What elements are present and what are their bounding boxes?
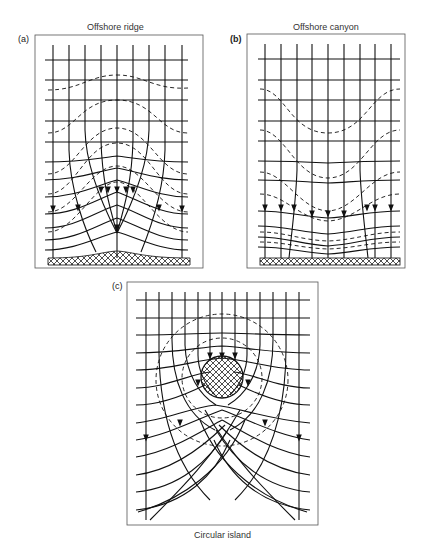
panel-c-circular-island bbox=[127, 282, 318, 525]
wave-refraction-diagram bbox=[0, 0, 433, 553]
panel-b-offshore-canyon bbox=[247, 34, 405, 268]
panel-a-offshore-ridge bbox=[35, 35, 203, 268]
